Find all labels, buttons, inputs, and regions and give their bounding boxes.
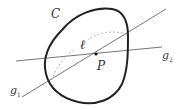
line-g1 [22,9,166,97]
closed-curve-c [45,9,128,104]
label-g1: g1 [10,85,21,98]
label-p: P [97,60,105,72]
label-g2: g2 [162,50,173,63]
line-g2 [16,47,162,61]
label-c: C [51,8,60,20]
point-p [94,52,97,55]
diagram-canvas [0,0,183,110]
label-l: ℓ [80,38,85,51]
